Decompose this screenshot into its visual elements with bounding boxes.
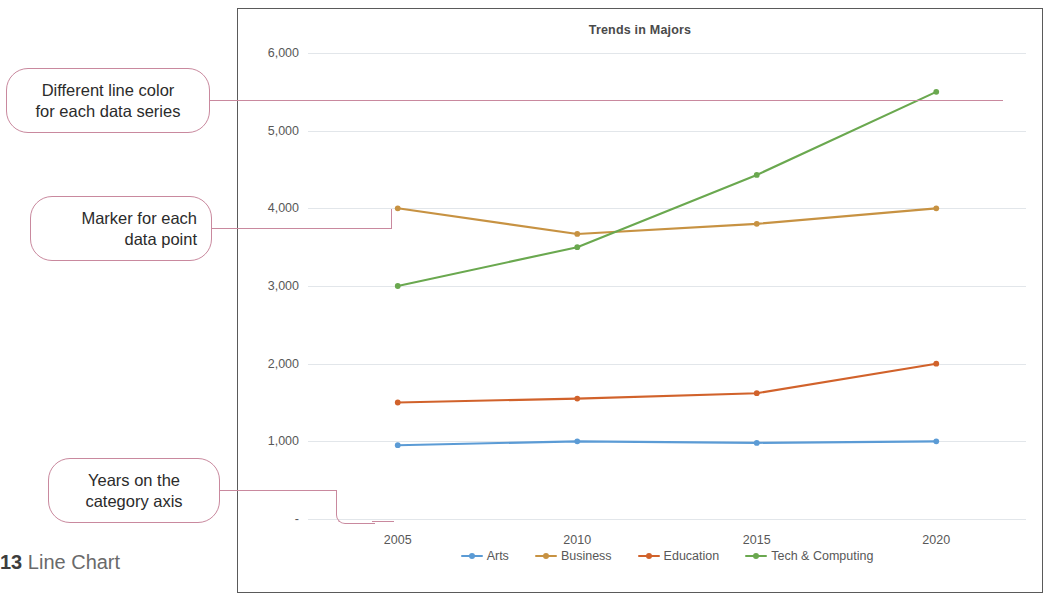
legend-item-arts[interactable]: Arts: [461, 549, 509, 563]
callout-marker-leader-vertical: [391, 209, 392, 229]
callout-marker-text-2: data point: [125, 230, 197, 248]
data-point-marker: [395, 283, 401, 289]
legend-swatch-icon: [745, 551, 767, 561]
y-axis-tick-label: 6,000: [268, 46, 299, 60]
callout-category-axis: Years on the category axis: [48, 458, 220, 523]
series-line-education: [398, 364, 937, 403]
x-axis-tick-label: 2010: [563, 533, 591, 547]
callout-category-axis-leader: [220, 490, 337, 491]
data-point-marker: [395, 442, 401, 448]
callout-marker-leader: [212, 228, 392, 229]
legend-label: Business: [561, 549, 612, 563]
data-point-marker: [933, 89, 939, 95]
callout-category-axis-leader-end: [372, 521, 394, 522]
data-point-marker: [754, 172, 760, 178]
data-point-marker: [574, 438, 580, 444]
legend-item-tech-computing[interactable]: Tech & Computing: [745, 549, 873, 563]
callout-category-axis-text-2: category axis: [85, 492, 182, 510]
legend-label: Tech & Computing: [771, 549, 873, 563]
data-point-marker: [754, 390, 760, 396]
data-point-marker: [574, 244, 580, 250]
data-point-marker: [754, 221, 760, 227]
data-point-marker: [395, 400, 401, 406]
y-axis-tick-label: 4,000: [268, 201, 299, 215]
legend-swatch-icon: [461, 551, 483, 561]
series-line-tech-computing: [398, 92, 937, 286]
caption-text: Line Chart: [28, 551, 120, 573]
y-axis-tick-label: 5,000: [268, 124, 299, 138]
x-axis-tick-label: 2020: [922, 533, 950, 547]
callout-line-color: Different line color for each data serie…: [6, 68, 210, 133]
data-point-marker: [933, 438, 939, 444]
gridline: [308, 519, 1026, 520]
data-point-marker: [754, 440, 760, 446]
series-lines: [308, 53, 1026, 519]
callout-category-axis-elbow: [336, 490, 375, 524]
data-point-marker: [933, 361, 939, 367]
callout-line-color-leader: [210, 100, 1003, 101]
data-point-marker: [395, 205, 401, 211]
legend-item-education[interactable]: Education: [638, 549, 720, 563]
legend-label: Education: [664, 549, 720, 563]
plot-area: -1,0002,0003,0004,0005,0006,000 20052010…: [308, 53, 1026, 519]
x-axis-tick-label: 2005: [384, 533, 412, 547]
caption-number: 13: [0, 551, 22, 573]
callout-marker-text-1: Marker for each: [81, 209, 197, 227]
data-point-marker: [574, 396, 580, 402]
legend-swatch-icon: [535, 551, 557, 561]
legend-label: Arts: [487, 549, 509, 563]
y-axis-tick-label: -: [295, 512, 299, 526]
chart-legend: ArtsBusinessEducationTech & Computing: [308, 549, 1026, 563]
data-point-marker: [933, 205, 939, 211]
data-point-marker: [574, 231, 580, 237]
series-line-arts: [398, 441, 937, 445]
callout-line-color-text-2: for each data series: [36, 102, 181, 120]
x-axis-tick-label: 2015: [743, 533, 771, 547]
callout-line-color-text-1: Different line color: [42, 81, 175, 99]
y-axis-tick-label: 3,000: [268, 279, 299, 293]
legend-swatch-icon: [638, 551, 660, 561]
y-axis-tick-label: 1,000: [268, 434, 299, 448]
callout-category-axis-text-1: Years on the: [88, 471, 180, 489]
chart-title: Trends in Majors: [238, 23, 1042, 37]
legend-item-business[interactable]: Business: [535, 549, 612, 563]
y-axis-tick-label: 2,000: [268, 357, 299, 371]
figure-caption: 13 Line Chart: [0, 551, 120, 574]
callout-marker: Marker for each data point: [30, 196, 212, 261]
